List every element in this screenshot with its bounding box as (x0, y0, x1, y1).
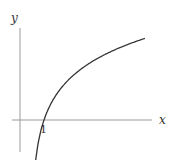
log-chart: y x 1 (0, 0, 178, 160)
log-curve (34, 38, 145, 160)
x-axis-label: x (159, 113, 166, 127)
x-tick-1: 1 (40, 123, 47, 136)
y-axis-label: y (10, 11, 18, 25)
